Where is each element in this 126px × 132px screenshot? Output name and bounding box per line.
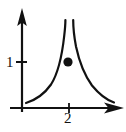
x-axis-tick-label-2: 2 — [64, 111, 72, 126]
filled-point-marker — [63, 57, 72, 66]
math-figure: 1 2 — [0, 0, 126, 132]
y-axis-tick-label-1: 1 — [6, 55, 14, 70]
graph-canvas — [0, 0, 126, 132]
curve-left-branch — [26, 20, 65, 103]
curve-right-branch — [73, 20, 114, 103]
